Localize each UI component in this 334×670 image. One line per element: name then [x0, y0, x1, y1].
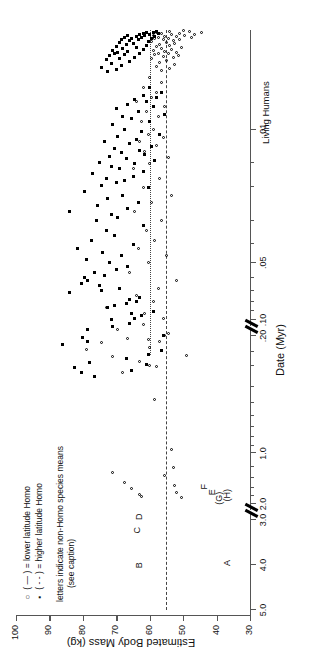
data-point-filled [108, 54, 111, 57]
data-point-filled [73, 366, 76, 369]
data-point-filled [118, 57, 121, 60]
data-point-filled [138, 149, 141, 152]
data-point-filled [118, 167, 121, 170]
data-point-open [121, 371, 124, 374]
data-point-filled [110, 319, 113, 322]
data-point-open [137, 247, 140, 250]
y-axis-tick [49, 616, 50, 621]
data-point-open [123, 481, 126, 484]
x-axis-line-segment-1 [250, 514, 251, 616]
open-circle-icon: ○ [22, 592, 33, 602]
data-point-filled [133, 56, 136, 59]
data-point-filled [95, 219, 98, 222]
data-point-open [193, 33, 196, 36]
data-point-filled [115, 268, 118, 271]
data-point-open [170, 194, 173, 197]
data-point-filled [86, 279, 89, 282]
data-point-open [180, 46, 183, 49]
species-letter: A [222, 556, 232, 570]
data-point-open [160, 219, 163, 222]
data-point-open [152, 129, 155, 132]
legend-note: letters indicate non-Homo species means … [55, 446, 77, 602]
data-point-filled [153, 35, 156, 38]
data-point-filled [80, 282, 83, 285]
data-point-filled [110, 62, 113, 65]
data-point-filled [121, 194, 124, 197]
species-letter: F [199, 480, 209, 494]
data-point-open [148, 162, 151, 165]
data-point-open [150, 57, 153, 60]
data-point-open [167, 332, 170, 335]
data-point-filled [126, 34, 129, 37]
filled-square-icon: ▪ [34, 592, 45, 602]
data-point-filled [125, 302, 128, 305]
data-point-open [162, 38, 165, 41]
species-letter: B [134, 558, 144, 572]
data-point-open [153, 398, 156, 401]
y-axis-tick [183, 616, 184, 621]
x-axis-minor-tick [251, 415, 254, 416]
data-point-open [150, 40, 153, 43]
data-point-filled [132, 42, 135, 45]
data-point-filled [145, 31, 148, 34]
data-point-filled [125, 357, 128, 360]
data-point-open [175, 491, 178, 494]
data-point-open [157, 52, 160, 55]
data-point-filled [128, 142, 131, 145]
data-point-open [178, 32, 181, 35]
x-axis-tick-label: 4.0 [258, 553, 268, 577]
data-point-filled [116, 51, 119, 54]
data-point-filled [137, 201, 140, 204]
y-axis-tick-label: 40 [211, 625, 221, 670]
data-point-filled [147, 40, 150, 43]
y-axis-tick [16, 616, 17, 621]
x-axis-tick [251, 262, 256, 263]
y-axis-tick [250, 616, 251, 621]
data-point-open [116, 328, 119, 331]
data-point-filled [93, 271, 96, 274]
x-axis-line-segment-2 [250, 330, 251, 510]
x-axis-minor-tick [251, 426, 254, 427]
species-letter: (H) [222, 488, 232, 502]
data-point-filled [98, 284, 101, 287]
data-point-filled [133, 98, 136, 101]
data-point-open [142, 186, 145, 189]
data-point-open [130, 487, 133, 490]
data-point-filled [121, 115, 124, 118]
data-point-filled [100, 184, 103, 187]
data-point-open [180, 496, 183, 499]
data-point-filled [133, 162, 136, 165]
data-point-filled [81, 336, 84, 339]
x-axis-tick-label: 1.0 [258, 441, 268, 465]
data-point-filled [103, 274, 106, 277]
data-point-filled [145, 44, 148, 47]
y-axis-tick-label: 100 [10, 625, 20, 670]
data-point-open [142, 323, 145, 326]
data-point-open [85, 348, 88, 351]
data-point-filled [126, 103, 129, 106]
data-point-filled [110, 165, 113, 168]
data-point-filled [115, 181, 118, 184]
data-point-open [167, 37, 170, 40]
data-point-open [133, 210, 136, 213]
x-axis-tick [251, 129, 256, 130]
data-point-filled [103, 140, 106, 143]
data-point-filled [121, 47, 124, 50]
data-point-open [165, 41, 168, 44]
data-point-filled [132, 243, 135, 246]
data-point-filled [132, 175, 135, 178]
data-point-filled [91, 172, 94, 175]
y-axis-title: Estimated Body Mass (kg) [56, 637, 206, 649]
data-point-filled [130, 312, 133, 315]
legend-row2-dash: ( - - ) [34, 571, 45, 589]
data-point-filled [142, 48, 145, 51]
data-point-open [132, 167, 135, 170]
data-point-filled [148, 86, 151, 89]
data-point-filled [135, 46, 138, 49]
x-axis-minor-tick [251, 495, 254, 496]
y-axis-tick-label: 30 [244, 625, 254, 670]
data-point-filled [133, 317, 136, 320]
data-point-open [157, 287, 160, 290]
data-point-filled [142, 94, 145, 97]
species-letter: D [134, 510, 144, 524]
